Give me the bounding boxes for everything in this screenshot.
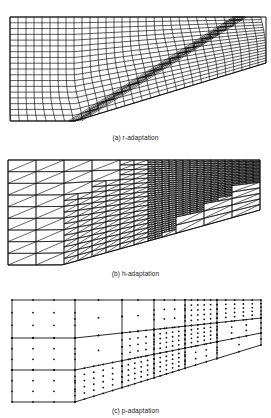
caption-p-adaptation: (c) p-adaptation bbox=[0, 407, 271, 414]
p-adaptation-mesh bbox=[0, 0, 271, 418]
